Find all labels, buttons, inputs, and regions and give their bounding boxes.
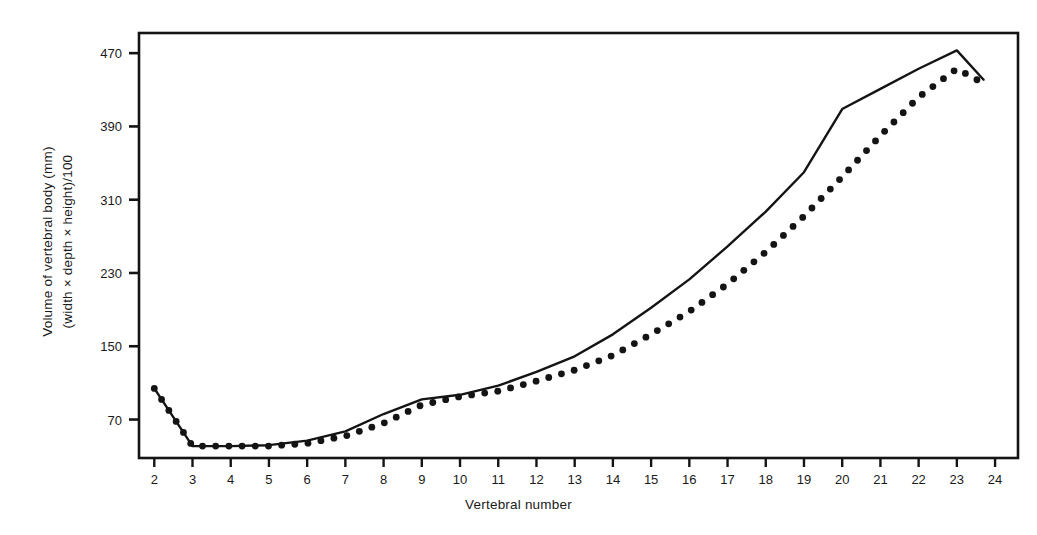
dotted-curve-dot <box>199 443 206 450</box>
x-axis-tick-label: 6 <box>304 472 311 487</box>
x-axis-tick-label: 3 <box>189 472 196 487</box>
dotted-curve-dot <box>863 147 870 154</box>
y-axis-tick-label: 310 <box>60 192 122 207</box>
dotted-curve-dot <box>974 76 981 83</box>
dotted-curve-dot <box>381 419 388 426</box>
dotted-curve-dot <box>187 440 194 447</box>
dotted-curve-dot <box>318 437 325 444</box>
dotted-curve-dot <box>533 378 540 385</box>
dotted-curve-dot <box>951 67 958 74</box>
chart-figure: Volume of vertebral body (mm) (width × d… <box>0 0 1037 535</box>
dotted-curve-dot <box>751 258 758 265</box>
x-axis-tick-label: 24 <box>988 472 1002 487</box>
y-axis-title-line-1: Volume of vertebral body (mm) <box>38 92 58 392</box>
dotted-curve-dot <box>730 275 737 282</box>
dotted-curve-dot <box>393 414 400 421</box>
dotted-curve-dot <box>212 443 219 450</box>
dotted-curve-dot <box>442 396 449 403</box>
y-axis-ticks <box>129 53 139 419</box>
dotted-curve-dot <box>356 428 363 435</box>
dotted-curve-dot <box>494 388 501 395</box>
series-dotted-line <box>151 67 980 449</box>
solid-curve <box>154 50 983 446</box>
plot-border <box>139 33 1018 458</box>
x-axis-tick-label: 14 <box>606 472 620 487</box>
dotted-curve-dot <box>151 385 158 392</box>
dotted-curve-dot <box>799 214 806 221</box>
dotted-curve-dot <box>909 100 916 107</box>
dotted-curve-dot <box>481 390 488 397</box>
y-axis-tick-label: 70 <box>60 412 122 427</box>
dotted-curve-dot <box>631 340 638 347</box>
x-axis-tick-label: 8 <box>380 472 387 487</box>
dotted-curve-dot <box>545 374 552 381</box>
dotted-curve-dot <box>688 307 695 314</box>
dotted-curve-dot <box>900 109 907 116</box>
x-axis-tick-label: 5 <box>265 472 272 487</box>
y-axis-tick-label: 230 <box>60 265 122 280</box>
dotted-curve-dot <box>417 402 424 409</box>
series-solid-line <box>154 50 983 446</box>
dotted-curve-dot <box>677 314 684 321</box>
dotted-curve-dot <box>962 70 969 77</box>
dotted-curve-dot <box>761 250 768 257</box>
dotted-curve-dot <box>929 83 936 90</box>
y-axis-tick-label: 470 <box>60 46 122 61</box>
dotted-curve-dot <box>740 267 747 274</box>
dotted-curve-dot <box>919 91 926 98</box>
dotted-curve-dot <box>940 75 947 82</box>
dotted-curve-dot <box>809 205 816 212</box>
dotted-curve-dot <box>291 441 298 448</box>
x-axis-tick-label: 13 <box>567 472 581 487</box>
dotted-curve-dot <box>468 392 475 399</box>
dotted-curve-dot <box>520 381 527 388</box>
x-axis-tick-label: 22 <box>911 472 925 487</box>
dotted-curve-dot <box>239 443 246 450</box>
dotted-curve-dot <box>252 443 259 450</box>
dotted-curve-dot <box>654 327 661 334</box>
dotted-curve-dot <box>827 186 834 193</box>
dotted-curve-dot <box>305 440 312 447</box>
dotted-curve-dot <box>558 370 565 377</box>
dotted-curve-dot <box>665 320 672 327</box>
dotted-curve-dot <box>608 353 615 360</box>
x-axis-tick-label: 2 <box>151 472 158 487</box>
x-axis-tick-label: 19 <box>797 472 811 487</box>
dotted-curve-dot <box>583 362 590 369</box>
dotted-curve-dot <box>780 232 787 239</box>
dotted-curve-dot <box>619 347 626 354</box>
x-axis-tick-label: 10 <box>453 472 467 487</box>
dotted-curve-dot <box>368 424 375 431</box>
plot-frame <box>139 33 1018 458</box>
dotted-curve-dot <box>595 357 602 364</box>
dotted-curve-dot <box>770 241 777 248</box>
dotted-curve-dot <box>331 435 338 442</box>
dotted-curve-dot <box>836 176 843 183</box>
dotted-curve-dot <box>891 119 898 126</box>
dotted-curve-dot <box>405 408 412 415</box>
dotted-curve-dot <box>507 384 514 391</box>
dotted-curve-dot <box>818 195 825 202</box>
dotted-curve-dot <box>854 157 861 164</box>
x-axis-tick-label: 4 <box>227 472 234 487</box>
dotted-curve-dot <box>343 432 350 439</box>
dotted-curve-dot <box>709 291 716 298</box>
x-axis-tick-label: 17 <box>720 472 734 487</box>
dotted-curve-dot <box>699 299 706 306</box>
dotted-curve-dot <box>278 442 285 449</box>
x-axis-tick-label: 21 <box>873 472 887 487</box>
dotted-curve-dot <box>720 284 727 291</box>
dotted-curve-dot <box>158 396 165 403</box>
y-axis-tick-label: 150 <box>60 339 122 354</box>
dotted-curve-dot <box>165 407 172 414</box>
x-axis-tick-label: 15 <box>644 472 658 487</box>
dotted-curve-dot <box>180 429 187 436</box>
dotted-curve-dot <box>790 223 797 230</box>
dotted-curve-dot <box>455 394 462 401</box>
x-axis-title: Vertebral number <box>0 497 1037 512</box>
x-axis-ticks <box>154 458 995 467</box>
y-axis-tick-label: 390 <box>60 119 122 134</box>
x-axis-tick-label: 20 <box>835 472 849 487</box>
dotted-curve-dot <box>881 128 888 135</box>
dotted-curve-dot <box>429 399 436 406</box>
